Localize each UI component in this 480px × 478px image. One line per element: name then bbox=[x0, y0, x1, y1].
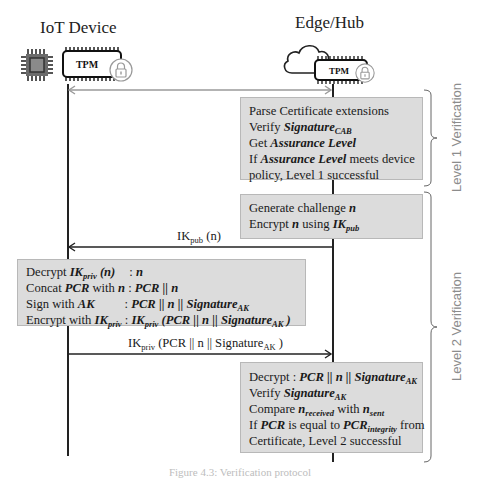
box-line: Generate challenge n bbox=[249, 200, 414, 216]
box-line: Sign with AK: PCR || n || SignatureAK bbox=[26, 296, 297, 312]
challenge-process-box: Generate challenge n Encrypt n using IKp… bbox=[240, 194, 423, 239]
phase-label-level1: Level 1 Verification bbox=[449, 78, 464, 198]
device-process-box: Decrypt IKpriv (n): n Concat PCR with n … bbox=[17, 259, 306, 326]
level2-bracket bbox=[424, 192, 437, 462]
box-line: Encrypt n using IKpub bbox=[249, 216, 414, 232]
box-line: Certificate, Level 2 successful bbox=[249, 433, 414, 449]
figure-caption: Figure 4.3: Verification protocol bbox=[0, 466, 480, 478]
box-line: Concat PCR with n : PCR || n bbox=[26, 280, 297, 296]
phase-label-level2: Level 2 Verification bbox=[449, 267, 464, 387]
box-line: policy, Level 1 successful bbox=[249, 167, 414, 183]
box-line: Verify SignatureCAB bbox=[249, 119, 414, 135]
box-line: Verify SignatureAK bbox=[249, 385, 414, 401]
box-line: Decrypt IKpriv (n): n bbox=[26, 264, 297, 280]
level1-process-box: Parse Certificate extensions Verify Sign… bbox=[240, 97, 423, 180]
handshake-arrow bbox=[69, 86, 331, 94]
response-arrow-label: IKpriv (PCR || n || SignatureAK ) bbox=[128, 336, 283, 351]
response-arrow bbox=[68, 350, 331, 358]
box-line: Encrypt with IKpriv : IKpriv (PCR || n |… bbox=[26, 312, 297, 328]
box-line: Parse Certificate extensions bbox=[249, 103, 414, 119]
box-line: Compare nreceived with nsent bbox=[249, 401, 414, 417]
box-line: Decrypt : PCR || n || SignatureAK bbox=[249, 369, 414, 385]
box-line: Get Assurance Level bbox=[249, 135, 414, 151]
level2-process-box: Decrypt : PCR || n || SignatureAK Verify… bbox=[240, 362, 423, 453]
box-line: If PCR is equal to PCRintegrity from bbox=[249, 417, 414, 433]
box-line: If Assurance Level meets device bbox=[249, 151, 414, 167]
level1-bracket bbox=[424, 90, 437, 186]
challenge-arrow-label: IKpub (n) bbox=[177, 229, 221, 244]
